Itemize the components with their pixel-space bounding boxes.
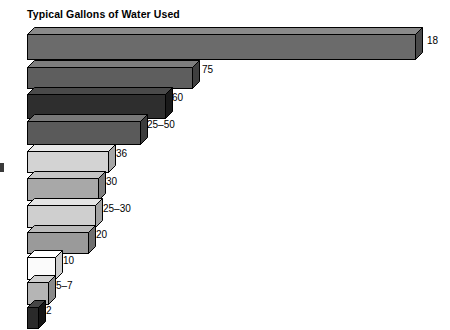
bar-front-face	[28, 122, 141, 145]
bar-front-face	[28, 308, 39, 329]
bar-value-label: 30	[106, 177, 117, 187]
bar-front-face	[28, 68, 193, 89]
bar-1	[27, 27, 424, 61]
bar-top-face	[28, 172, 106, 179]
bar-top-face	[28, 145, 116, 152]
bar-value-label: 75	[202, 65, 213, 75]
bar-value-label: 20	[96, 230, 107, 240]
bar-value-label: 10	[63, 256, 74, 266]
bar-value-label: 18	[427, 36, 438, 46]
bar-value-label: 2	[46, 306, 52, 316]
bar-value-label: 25–30	[103, 204, 131, 214]
cropped-axis-mark	[0, 163, 4, 172]
bar-front-face	[28, 152, 109, 173]
bar-11	[27, 300, 47, 330]
bar-top-face	[28, 88, 173, 95]
bar-4	[27, 114, 149, 146]
bar-top-face	[28, 115, 148, 122]
bar-value-label: 5–7	[56, 281, 73, 291]
bar-value-label: 60	[172, 93, 183, 103]
bar-value-label: 36	[116, 149, 127, 159]
bar-value-label: 25–50	[147, 120, 175, 130]
bar-front-face	[28, 35, 416, 60]
bar-top-face	[28, 226, 96, 233]
bar-top-face	[28, 61, 200, 68]
bar-top-face	[28, 28, 423, 35]
bar-2	[27, 60, 201, 90]
chart-title: Typical Gallons of Water Used	[27, 8, 180, 20]
bar-top-face	[28, 199, 103, 206]
bar-5	[27, 144, 117, 174]
